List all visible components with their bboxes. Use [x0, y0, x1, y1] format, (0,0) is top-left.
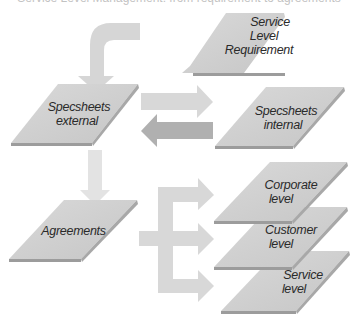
arrow-slr-to-spec-external — [78, 23, 140, 92]
arrow-internal-to-external — [141, 114, 213, 147]
arrow-agreements-to-levels — [139, 178, 214, 302]
label-slr: Service Level Requirement — [228, 15, 298, 57]
label-service-level: Service level — [268, 268, 338, 296]
arrow-external-to-internal — [141, 85, 213, 118]
label-agreements: Agreements — [36, 224, 111, 238]
label-spec-internal: Specsheets internal — [251, 104, 321, 132]
label-corporate-level: Corporate level — [256, 178, 326, 206]
arrow-external-to-agreements — [80, 150, 110, 205]
label-customer-level: Customer level — [256, 223, 326, 251]
label-spec-external: Specsheets external — [44, 100, 114, 128]
diagram-canvas: Service Level Management: from requireme… — [0, 0, 358, 321]
